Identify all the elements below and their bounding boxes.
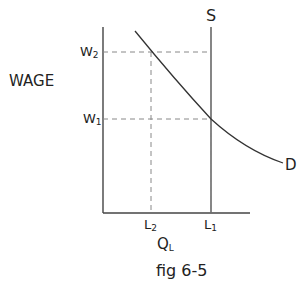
supply-label: S [206, 6, 216, 25]
w1-tick-label: W1 [83, 111, 102, 127]
l2-tick-label: L2 [144, 217, 157, 233]
labor-market-diagram: S D WAGE W2 W1 L2 L1 QL fig 6-5 [0, 0, 301, 304]
y-axis-label: WAGE [9, 72, 54, 90]
demand-curve [135, 31, 283, 163]
l1-tick-label: L1 [204, 217, 217, 233]
figure-caption: fig 6-5 [156, 261, 207, 280]
demand-label: D [285, 156, 297, 174]
x-axis-label: QL [157, 235, 174, 253]
w2-tick-label: W2 [80, 44, 99, 60]
